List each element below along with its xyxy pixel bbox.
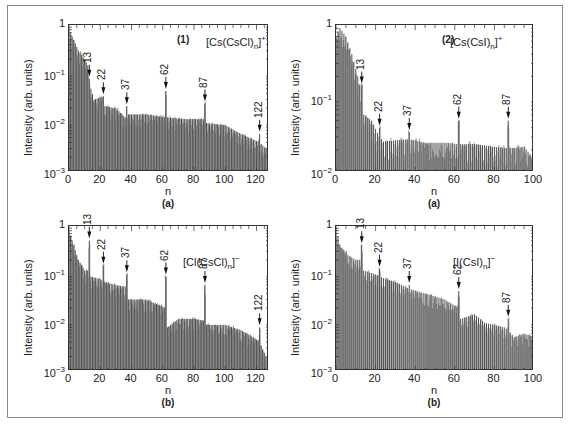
x-tick-label: 100 [518,174,548,185]
magic-number-label: 87 [501,292,512,303]
x-tick-label: 120 [241,174,271,185]
magic-number-label: 22 [373,101,384,112]
formula-charge: − [235,254,240,263]
magic-number-arrow-icon [378,119,382,126]
x-tick-label: 60 [147,174,177,185]
x-tick-label: 0 [53,174,83,185]
x-tick-label: 60 [147,373,177,384]
magic-number-arrow-icon [125,265,129,272]
magic-number-arrow-icon [101,87,105,94]
y-tick-base: 10 [311,270,323,282]
magic-number-label: 22 [96,69,107,80]
x-tick-label: 20 [84,373,114,384]
y-tick-base: 10 [44,119,56,131]
formula-prefix: [I(CsI) [453,256,483,268]
y-axis-label: Intensity (arb. units) [289,59,301,156]
x-tick-label: 80 [478,174,508,185]
y-tick-base: 1 [59,218,65,230]
y-tick-label: 1 [302,18,332,29]
y-tick-base: 10 [311,318,323,330]
x-tick-label: 40 [399,373,429,384]
magic-number-arrow-icon [125,97,129,104]
x-tick-label: 20 [360,373,390,384]
y-tick-label: 1 [35,18,65,29]
magic-number-label: 62 [159,64,170,75]
magic-number-label: 13 [355,218,366,229]
x-tick-label: 60 [439,174,469,185]
x-tick-label: 20 [360,174,390,185]
magic-number-arrow-icon [457,282,461,289]
x-tick-label: 0 [320,174,350,185]
magic-number-arrow-icon [203,95,207,102]
y-tick-exponent: −2 [56,317,65,326]
y-tick-label: 10−2 [302,316,332,331]
y-tick-label: 10−2 [35,316,65,331]
x-axis-label: n [424,384,444,396]
panel-sublabel: (b) [153,397,183,408]
y-tick-base: 10 [44,270,56,282]
magic-number-label: 37 [120,247,131,258]
x-tick-label: 80 [178,373,208,384]
y-tick-label: 10−1 [302,92,332,107]
y-tick-exponent: −1 [56,268,65,277]
panel-sublabel: (a) [153,198,183,209]
x-tick-label: 80 [478,373,508,384]
y-tick-exponent: −1 [323,268,332,277]
magic-number-label: 37 [120,79,131,90]
magic-number-arrow-icon [87,232,91,239]
magic-number-label: 22 [373,242,384,253]
magic-number-label: 37 [402,105,413,116]
y-tick-label: 10−1 [35,267,65,282]
y-tick-base: 10 [44,70,56,82]
y-tick-exponent: −1 [323,93,332,102]
y-tick-base: 1 [59,17,65,29]
magic-number-arrow-icon [101,257,105,264]
formula-prefix: [Cl(CsCl) [183,256,228,268]
magic-number-arrow-icon [360,236,364,243]
x-tick-label: 100 [209,373,239,384]
magic-number-label: 122 [253,101,264,118]
magic-number-label: 87 [501,94,512,105]
chart-title-formula: [Cl(CsCl)n]− [183,254,240,271]
magic-number-arrow-icon [506,310,510,317]
magic-number-label: 122 [253,295,264,312]
y-tick-base: 1 [326,218,332,230]
y-tick-label: 1 [35,219,65,230]
magic-number-arrow-icon [506,112,510,119]
chart-title-formula: [Cs(CsCl)n]+ [206,34,266,51]
y-tick-base: 10 [44,318,56,330]
magic-number-arrow-icon [378,260,382,267]
y-tick-exponent: −2 [56,117,65,126]
y-axis-label: Intensity (arb. units) [289,259,301,356]
magic-number-label: 13 [82,52,93,63]
x-tick-label: 20 [84,174,114,185]
magic-number-label: 62 [159,249,170,260]
y-axis-label: Intensity (arb. units) [22,259,34,356]
y-tick-base: 1 [326,17,332,29]
y-tick-label: 10−1 [35,67,65,82]
magic-number-label: 62 [452,94,463,105]
x-tick-label: 100 [209,174,239,185]
magic-number-label: 13 [355,58,366,69]
formula-charge: − [490,254,495,263]
magic-number-arrow-icon [457,112,461,119]
x-tick-label: 0 [320,373,350,384]
chart-title-formula: [I(CsI)n]− [453,254,495,271]
magic-number-arrow-icon [203,276,207,283]
panel-sublabel: (b) [419,397,449,408]
x-tick-label: 60 [439,373,469,384]
chart-title-formula: [Cs(CsI)n]+ [450,34,503,51]
formula-prefix: [Cs(CsCl) [206,36,254,48]
panel-number: (1) [177,34,189,45]
x-tick-label: 40 [116,373,146,384]
x-axis-label: n [158,185,178,197]
magic-number-arrow-icon [407,123,411,130]
magic-number-label: 37 [402,258,413,269]
y-tick-exponent: −1 [56,68,65,77]
y-tick-base: 10 [311,94,323,106]
y-axis-label: Intensity (arb. units) [22,59,34,156]
magic-number-arrow-icon [258,318,262,325]
formula-prefix: [Cs(CsI) [450,36,490,48]
magic-number-label: 22 [96,239,107,250]
magic-number-arrow-icon [258,125,262,132]
